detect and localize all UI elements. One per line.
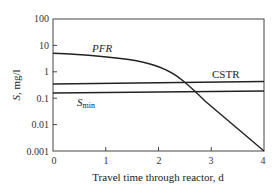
y-tick-1: 1 — [44, 66, 49, 77]
y-tick-100: 100 — [34, 13, 49, 24]
x-axis-title: Travel time through reactor, d — [92, 171, 224, 183]
y-tick-0.01: 0.01 — [32, 119, 50, 130]
pfr-label: PFR — [91, 42, 112, 54]
smin-label: Smin — [77, 96, 95, 110]
y-axis — [53, 45, 57, 124]
y-axis-unit: , mg/l — [10, 69, 22, 95]
cstr-line — [53, 82, 264, 85]
chart: 100 10 1 0.1 0.01 0.001 0 1 2 3 4 Travel… — [0, 0, 278, 188]
y-tick-10: 10 — [39, 40, 49, 51]
y-tick-labels: 100 10 1 0.1 0.01 0.001 — [27, 13, 50, 157]
plot-area — [53, 19, 264, 151]
smin-label-sub: min — [83, 101, 95, 110]
x-tick-labels: 0 1 2 3 4 — [52, 155, 266, 166]
y-tick-0.1: 0.1 — [37, 93, 50, 104]
x-tick-2: 2 — [157, 155, 162, 166]
y-tick-0.001: 0.001 — [27, 146, 50, 157]
x-tick-4: 4 — [261, 155, 266, 166]
y-axis-title: S, mg/l — [10, 69, 22, 100]
cstr-label: CSTR — [212, 68, 240, 80]
x-axis — [106, 147, 212, 151]
x-tick-1: 1 — [104, 155, 109, 166]
smin-line — [53, 91, 264, 93]
x-tick-3: 3 — [209, 155, 214, 166]
x-tick-0: 0 — [52, 155, 57, 166]
